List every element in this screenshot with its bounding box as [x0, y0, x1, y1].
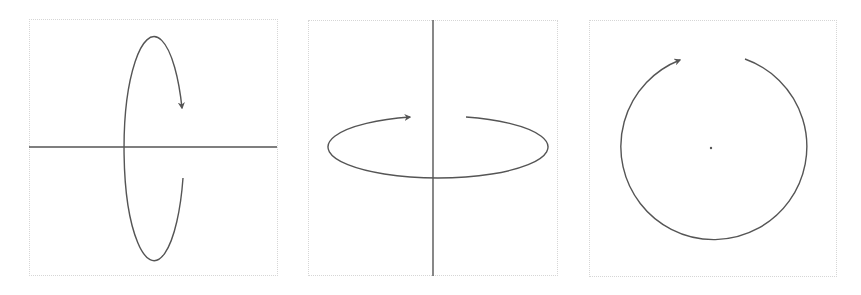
- point-rotation-group: [621, 59, 807, 240]
- rotation-arrow-icon: [124, 37, 183, 261]
- vertical-axis-group: [328, 20, 548, 276]
- center-point-icon: [710, 147, 712, 149]
- rotation-arrow-icon: [328, 117, 548, 178]
- horizontal-axis-group: [29, 37, 277, 261]
- rotation-arrow-icon: [621, 59, 807, 240]
- rotation-diagram: [0, 0, 861, 295]
